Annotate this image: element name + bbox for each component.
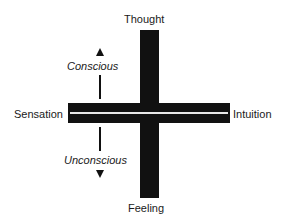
arrow-down-icon [96,170,104,178]
label-thought: Thought [124,13,164,25]
conscious-arrow-shaft [99,75,101,99]
label-intuition: Intuition [233,108,272,120]
label-unconscious: Unconscious [64,154,127,166]
unconscious-arrow-shaft [99,127,101,151]
label-sensation: Sensation [14,108,63,120]
arrow-up-icon [96,48,104,56]
psychological-functions-diagram: Thought Feeling Sensation Intuition Cons… [0,0,288,221]
conscious-unconscious-divider [70,112,228,114]
label-feeling: Feeling [128,202,164,214]
label-conscious: Conscious [67,60,118,72]
